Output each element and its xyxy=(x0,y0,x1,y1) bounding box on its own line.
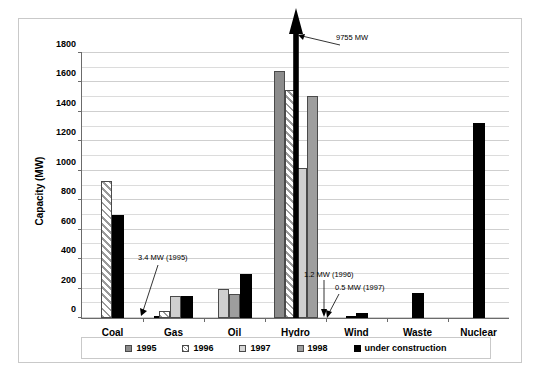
annotation-hydro-leader xyxy=(298,33,342,47)
y-tick-label: 1800 xyxy=(56,40,82,49)
group-oil: Oil xyxy=(204,53,265,318)
legend-swatch-icon xyxy=(354,345,361,352)
bar-oil-1997 xyxy=(218,289,229,318)
bar-coal-1996 xyxy=(101,181,112,318)
y-tick-label: 1400 xyxy=(56,98,82,107)
bar-hydro-1995 xyxy=(274,71,285,318)
y-tick-label: 200 xyxy=(61,275,82,284)
bar-hydro-1998 xyxy=(307,96,318,318)
bar-waste-under-construction xyxy=(412,293,424,318)
y-axis-label: Capacity (MW) xyxy=(34,156,45,225)
legend-label: under construction xyxy=(365,343,447,353)
bar-hydro-1996 xyxy=(285,90,296,318)
bar-oil-1998 xyxy=(229,294,240,318)
plot-area: 180016001400120010008006004002000 Coal G… xyxy=(81,53,509,319)
bar-gas-under-construction xyxy=(181,296,193,318)
legend-label: 1997 xyxy=(250,343,270,353)
bar-hydro-1997 xyxy=(296,168,307,318)
legend-label: 1998 xyxy=(308,343,328,353)
legend-item-1996[interactable]: 1996 xyxy=(182,343,213,353)
legend-swatch-icon xyxy=(297,345,304,352)
y-tick-label: 0 xyxy=(71,305,82,314)
bar-oil-under-construction xyxy=(240,274,252,318)
group-waste: Waste xyxy=(387,53,448,318)
y-tick-label: 1600 xyxy=(56,69,82,78)
legend-label: 1996 xyxy=(193,343,213,353)
annotation-wind-1997-leader xyxy=(326,293,342,319)
legend-item-1998[interactable]: 1998 xyxy=(297,343,328,353)
legend-swatch-icon xyxy=(239,345,246,352)
y-tick-label: 1000 xyxy=(56,157,82,166)
legend-item-under-construction[interactable]: under construction xyxy=(354,343,447,353)
legend-swatch-icon xyxy=(125,345,132,352)
legend-label: 1995 xyxy=(136,343,156,353)
chart-legend: 1995199619971998under construction xyxy=(81,337,491,359)
bar-nuclear-under-construction xyxy=(473,123,485,318)
chart-page: Capacity (MW) 18001600140012001000800600… xyxy=(0,0,540,380)
y-tick-label: 600 xyxy=(61,216,82,225)
group-nuclear: Nuclear xyxy=(448,53,509,318)
annotation-gas-leader xyxy=(138,263,166,317)
y-tick-label: 1200 xyxy=(56,128,82,137)
annotation-wind-1997-value: 0.5 MW (1997) xyxy=(335,284,385,292)
bar-wind-under-construction xyxy=(356,313,368,318)
group-coal: Coal xyxy=(82,53,143,318)
y-tick-label: 800 xyxy=(61,187,82,196)
bar-gas-1997 xyxy=(170,296,181,318)
legend-swatch-icon xyxy=(182,345,189,352)
chart-frame: Capacity (MW) 18001600140012001000800600… xyxy=(18,18,522,363)
annotation-gas-value: 3.4 MW (1995) xyxy=(138,254,188,262)
y-tick-label: 400 xyxy=(61,246,82,255)
annotation-wind-1996-value: 1.2 MW (1996) xyxy=(304,271,354,279)
legend-item-1997[interactable]: 1997 xyxy=(239,343,270,353)
legend-item-1995[interactable]: 1995 xyxy=(125,343,156,353)
bar-coal-under-construction xyxy=(112,215,124,318)
